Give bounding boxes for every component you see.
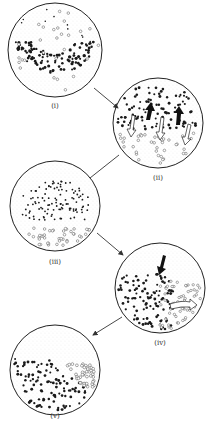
hollow-particle [165, 318, 167, 320]
stage-iii: (iii) [10, 161, 100, 266]
dark-particle [73, 210, 75, 212]
hollow-particle [75, 373, 78, 376]
dark-particle [124, 296, 127, 299]
dark-particle [151, 294, 153, 296]
hollow-particle [185, 284, 187, 286]
dark-particle [54, 197, 56, 199]
dark-particle [164, 328, 167, 331]
dark-particle [46, 363, 49, 366]
hollow-particle [163, 149, 166, 152]
dark-particle [58, 189, 60, 191]
dark-particle [40, 383, 43, 386]
hollow-particle [176, 281, 178, 283]
dark-particle [155, 103, 157, 105]
hollow-particle [170, 280, 172, 282]
dark-particle [89, 41, 91, 43]
dark-particle [80, 42, 83, 45]
dark-particle [175, 94, 177, 96]
dark-particle [73, 67, 76, 70]
dark-particle [166, 292, 168, 294]
hollow-particle [179, 310, 181, 312]
dark-particle [37, 376, 39, 378]
dark-particle [170, 118, 173, 121]
dark-particle [38, 202, 40, 204]
dark-particle [29, 217, 31, 219]
hollow-particle [160, 304, 162, 306]
dark-particle [90, 45, 92, 47]
dark-particle [131, 107, 133, 109]
dark-particle [30, 47, 32, 49]
dark-particle [155, 125, 157, 127]
dark-particle [117, 118, 119, 120]
dark-particle [156, 284, 158, 286]
hollow-particle [60, 33, 63, 36]
hollow-particle [199, 297, 201, 299]
dark-particle [147, 101, 149, 103]
dark-particle [51, 363, 54, 366]
dark-particle [133, 318, 135, 320]
dark-particle [65, 182, 67, 184]
dark-particle [14, 358, 16, 360]
dark-particle [57, 379, 60, 382]
hollow-particle [56, 78, 59, 81]
dark-particle [37, 405, 40, 408]
dark-particle [156, 112, 159, 115]
hollow-particle [160, 326, 162, 328]
dark-particle [126, 103, 128, 105]
hollow-particle [119, 133, 122, 136]
dark-particle [135, 287, 138, 290]
dark-particle [28, 55, 31, 58]
hollow-particle [182, 152, 185, 155]
dark-particle [152, 291, 154, 293]
hollow-particle [192, 284, 194, 286]
dark-particle [30, 190, 32, 192]
dark-particle [148, 87, 150, 89]
dark-particle [155, 118, 157, 120]
dark-particle [149, 296, 151, 298]
dark-particle [168, 102, 171, 105]
dark-particle [61, 52, 64, 55]
hollow-particle [150, 141, 153, 144]
dark-particle [160, 277, 163, 280]
dark-particle [56, 187, 58, 189]
dark-particle [167, 124, 170, 127]
dark-particle [52, 183, 54, 185]
hollow-particle [164, 299, 166, 301]
hollow-particle [62, 230, 65, 233]
dark-particle [60, 184, 62, 186]
dark-particle [29, 210, 31, 212]
dark-particle [55, 383, 57, 385]
hollow-particle [181, 307, 183, 309]
dark-particle [124, 281, 126, 283]
dark-particle [63, 390, 65, 392]
dark-particle [122, 302, 125, 305]
dark-particle [88, 55, 90, 57]
dark-particle [46, 213, 48, 215]
dark-particle [61, 189, 63, 191]
hollow-particle [79, 30, 82, 33]
dark-particle [152, 308, 154, 310]
dark-particle [28, 44, 30, 46]
dark-particle [44, 219, 46, 221]
dark-particle [145, 279, 148, 282]
dark-particle [53, 400, 56, 403]
dark-particle [138, 322, 140, 324]
hollow-particle [168, 324, 170, 326]
hollow-particle [73, 228, 76, 231]
dark-particle [84, 219, 86, 221]
hollow-particle [157, 154, 160, 157]
dark-particle [57, 407, 59, 409]
dark-particle [155, 304, 157, 306]
dark-particle [76, 194, 78, 196]
dark-particle [66, 382, 69, 385]
dark-particle [46, 9, 48, 11]
dark-particle [49, 70, 51, 72]
dark-particle [37, 197, 39, 199]
dark-particle [71, 61, 74, 64]
hollow-particle [119, 137, 122, 140]
hollow-particle [38, 243, 41, 246]
hollow-particle [156, 147, 159, 150]
dark-particle [81, 209, 83, 211]
dark-particle [128, 289, 131, 292]
dark-particle [71, 68, 73, 70]
